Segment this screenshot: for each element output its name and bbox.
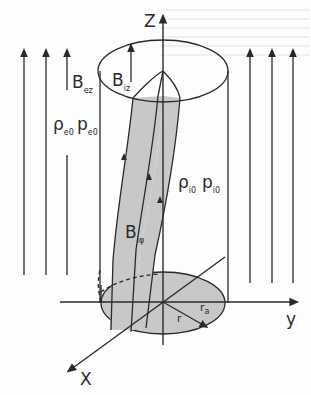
x-axis-label: X: [80, 369, 92, 389]
flux-tube-diagram: Z y X Bez Biz Biφ ρe0 pe0 ρi0 pi0 r ra: [0, 0, 311, 395]
radius-label: r: [177, 312, 182, 325]
external-field-label: Bez: [72, 72, 93, 95]
y-axis-label: y: [286, 309, 296, 329]
diagram-svg: Z y X Bez Biz Biφ ρe0 pe0 ρi0 pi0 r ra: [0, 0, 311, 395]
external-density-label: ρe0: [53, 114, 74, 137]
z-axis-label: Z: [144, 11, 156, 31]
external-field-lines-right: [250, 52, 293, 283]
internal-axial-field-label: Biz: [112, 70, 130, 93]
external-field-lines-left: [24, 52, 67, 275]
internal-pressure-label: pi0: [202, 172, 220, 195]
internal-density-label: ρi0: [178, 172, 196, 195]
external-pressure-label: pe0: [77, 114, 98, 137]
